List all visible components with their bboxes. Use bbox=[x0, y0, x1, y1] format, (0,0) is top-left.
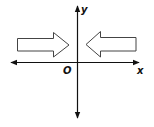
y-axis-label: y bbox=[81, 4, 88, 15]
x-axis-label: x bbox=[136, 65, 144, 76]
origin-label: O bbox=[63, 65, 72, 76]
right-arrow-left-pointing-icon bbox=[86, 32, 136, 58]
coordinate-plane-diagram: y x O bbox=[0, 0, 154, 127]
left-arrow-right-pointing-icon bbox=[18, 33, 70, 58]
